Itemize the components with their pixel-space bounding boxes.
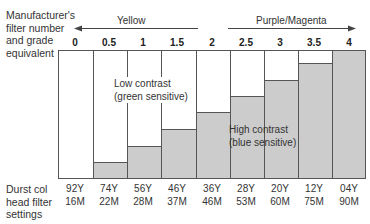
yellow-value: 46Y: [160, 183, 194, 196]
column-1: [127, 51, 161, 178]
label-line: Manufacturer's: [6, 9, 75, 22]
yellow-value: 20Y: [263, 183, 297, 196]
setting-cell: 20Y60M: [263, 183, 297, 208]
yellow-value: 74Y: [92, 183, 126, 196]
yellow-value: 28Y: [229, 183, 263, 196]
setting-cell: 92Y16M: [58, 183, 92, 208]
grade-label: 2.5: [229, 37, 263, 48]
column-3: [264, 51, 298, 178]
high-contrast-annotation: High contrast (blue sensitive): [229, 123, 296, 149]
setting-cell: 56Y28M: [126, 183, 160, 208]
magenta-value: 37M: [160, 196, 194, 209]
high-contrast-bar: [94, 162, 127, 178]
annotation-line: (green sensitive): [114, 90, 188, 103]
grade-label: 2: [195, 37, 229, 48]
grade-label: 4: [332, 37, 366, 48]
setting-cell: 36Y46M: [195, 183, 229, 208]
magenta-value: 46M: [195, 196, 229, 209]
bottom-row-label: Durst col head filter settings: [6, 183, 52, 221]
magenta-arrow: [228, 28, 350, 29]
annotation-line: Low contrast: [114, 77, 188, 90]
arrow-right-icon: [348, 25, 356, 32]
arrow-left-icon: [74, 25, 82, 32]
column-1-5: [161, 51, 196, 178]
high-contrast-bar: [333, 51, 365, 178]
grade-label: 1: [126, 37, 160, 48]
setting-cell: 04Y90M: [332, 183, 366, 208]
magenta-value: 53M: [229, 196, 263, 209]
magenta-value: 90M: [332, 196, 366, 209]
annotation-line: (blue sensitive): [229, 136, 296, 149]
label-line: settings: [6, 208, 52, 221]
magenta-value: 22M: [92, 196, 126, 209]
column-0: [59, 51, 93, 178]
yellow-label: Yellow: [117, 15, 146, 26]
grade-label: 3.5: [297, 37, 331, 48]
setting-cell: 46Y37M: [160, 183, 194, 208]
column-0-5: [93, 51, 127, 178]
yellow-arrow: [78, 28, 198, 29]
label-line: Durst col: [6, 183, 52, 196]
label-line: filter number: [6, 22, 75, 35]
low-contrast-annotation: Low contrast (green sensitive): [114, 77, 188, 103]
setting-cell: 12Y75M: [297, 183, 331, 208]
yellow-value: 92Y: [58, 183, 92, 196]
contrast-chart: Low contrast (green sensitive) High cont…: [58, 50, 366, 179]
high-contrast-bar: [299, 63, 332, 178]
magenta-label: Purple/Magenta: [256, 15, 327, 26]
column-4: [332, 51, 365, 178]
yellow-value: 56Y: [126, 183, 160, 196]
column-2-5: [230, 51, 264, 178]
setting-cell: 74Y22M: [92, 183, 126, 208]
yellow-value: 36Y: [195, 183, 229, 196]
magenta-value: 75M: [297, 196, 331, 209]
label-line: head filter: [6, 196, 52, 209]
high-contrast-bar: [128, 146, 161, 178]
magenta-value: 60M: [263, 196, 297, 209]
yellow-value: 04Y: [332, 183, 366, 196]
column-3-5: [298, 51, 332, 178]
grade-label: 0: [58, 37, 92, 48]
setting-cell: 28Y53M: [229, 183, 263, 208]
grade-label: 3: [263, 37, 297, 48]
grade-label: 1.5: [160, 37, 194, 48]
column-2: [196, 51, 230, 178]
yellow-value: 12Y: [297, 183, 331, 196]
high-contrast-bar: [197, 112, 230, 178]
magenta-value: 28M: [126, 196, 160, 209]
grade-label: 0.5: [92, 37, 126, 48]
annotation-line: High contrast: [229, 123, 296, 136]
magenta-value: 16M: [58, 196, 92, 209]
high-contrast-bar: [162, 129, 196, 178]
